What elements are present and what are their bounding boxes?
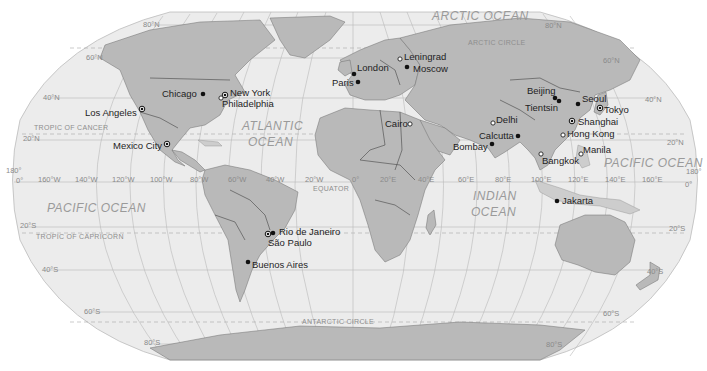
city-los-angeles: Los Angeles xyxy=(85,106,145,118)
city-label: Tokyo xyxy=(604,104,629,115)
city-dot-icon xyxy=(352,72,357,77)
latitude-label-60-s: 60°S xyxy=(603,309,619,318)
longitude-label-60-e: 60°E xyxy=(458,175,474,184)
city-label: Philadelphia xyxy=(222,98,274,109)
city-capital-center-icon xyxy=(224,94,227,97)
city-label: Chicago xyxy=(162,88,197,99)
city-label: Moscow xyxy=(413,63,448,74)
ocean-label-pacific-west: PACIFIC OCEAN xyxy=(604,156,703,170)
arctic-circle-label: ARCTIC CIRCLE xyxy=(468,39,526,46)
latitude-label-20-n: 20°N xyxy=(667,138,684,147)
city-open-circle-icon xyxy=(398,57,402,61)
city-label: Hong Kong xyxy=(567,128,615,139)
latitude-label-40-s: 40°S xyxy=(42,265,58,274)
city-dot-icon xyxy=(555,199,560,204)
city-label: São Paulo xyxy=(268,237,312,248)
latitude-label-40-n: 40°N xyxy=(645,95,662,104)
latitude-label-60-n: 60°N xyxy=(603,56,620,65)
city-label: Cairo xyxy=(385,118,408,129)
city-label: Rio de Janeiro xyxy=(279,226,340,237)
antarctic-circle-label: ANTARCTIC CIRCLE xyxy=(302,318,374,325)
longitude-label-100-e: 100°E xyxy=(531,175,552,184)
latitude-label-80-n: 80°N xyxy=(545,21,562,30)
longitude-label-0: 0° xyxy=(352,175,359,184)
city-rio-de-janeiro: Rio de Janeiro xyxy=(271,226,341,237)
city-capital-center-icon xyxy=(599,107,602,110)
city-label: London xyxy=(357,62,389,73)
longitude-label-40-w: 40°W xyxy=(266,175,285,184)
city-label: Manila xyxy=(583,144,612,155)
city-label: Buenos Aires xyxy=(252,259,308,270)
longitude-label-100-w: 100°W xyxy=(150,175,174,184)
world-map: 80°N60°N40°N20°N0°20°S40°S60°S80°S80°N60… xyxy=(0,0,707,371)
city-dot-icon xyxy=(246,260,251,265)
longitude-label-80-e: 80°E xyxy=(495,175,511,184)
longitude-label-120-w: 120°W xyxy=(112,175,136,184)
longitude-label-160-e: 160°E xyxy=(642,175,663,184)
city-new-york: New York xyxy=(222,87,270,98)
city-dot-icon xyxy=(516,134,521,139)
ocean-label-atlantic-2: OCEAN xyxy=(248,135,293,149)
longitude-label-60-w: 60°W xyxy=(228,175,247,184)
city-label: Calcutta xyxy=(479,130,515,141)
longitude-label-140-e: 140°E xyxy=(605,175,626,184)
ocean-label-indian-1: INDIAN xyxy=(473,189,517,203)
latitude-label-0: 0° xyxy=(685,180,692,189)
latitude-label-20-s: 20°S xyxy=(669,224,685,233)
city-label: Tientsin xyxy=(525,102,558,113)
city-label: Paris xyxy=(332,77,354,88)
city-label: Delhi xyxy=(496,114,518,125)
city-dot-icon xyxy=(490,142,495,147)
latitude-label-80-n: 80°N xyxy=(143,20,160,29)
city-dot-icon xyxy=(405,65,410,70)
ocean-label-atlantic-1: ATLANTIC xyxy=(241,119,303,133)
tropic-capricorn-label: TROPIC OF CAPRICORN xyxy=(36,233,124,240)
edge-meridian-label: 180° xyxy=(6,166,22,175)
city-label: New York xyxy=(230,87,270,98)
latitude-label-20-s: 20°S xyxy=(20,221,36,230)
longitude-label-20-e: 20°E xyxy=(380,175,396,184)
latitude-label-0: 0° xyxy=(16,176,23,185)
city-label: Bangkok xyxy=(542,155,579,166)
ocean-label-indian-2: OCEAN xyxy=(471,205,516,219)
equator-label: EQUATOR xyxy=(313,185,349,193)
latitude-label-60-n: 60°N xyxy=(86,53,103,62)
latitude-label-80-s: 80°S xyxy=(144,338,160,347)
city-open-circle-icon xyxy=(561,133,565,137)
city-capital-center-icon xyxy=(141,108,144,111)
city-label: Shanghai xyxy=(578,116,618,127)
city-label: Mexico City xyxy=(113,140,162,151)
city-dot-icon xyxy=(356,80,361,85)
city-philadelphia: Philadelphia xyxy=(219,96,275,109)
city-dot-icon xyxy=(576,102,581,107)
city-dot-icon xyxy=(553,96,558,101)
city-hong-kong: Hong Kong xyxy=(561,128,615,139)
longitude-label-80-w: 80°W xyxy=(190,175,209,184)
city-label: Los Angeles xyxy=(85,107,137,118)
latitude-label-40-s: 40°S xyxy=(647,267,663,276)
city-open-circle-icon xyxy=(408,122,412,126)
city-buenos-aires: Buenos Aires xyxy=(246,259,309,270)
ocean-label-pacific-east: PACIFIC OCEAN xyxy=(47,201,146,215)
longitude-label-40-e: 40°E xyxy=(418,175,434,184)
city-manila: Manila xyxy=(579,144,612,156)
city-capital-center-icon xyxy=(267,233,270,236)
city-capital-center-icon xyxy=(166,143,169,146)
longitude-label-20-w: 20°W xyxy=(305,175,324,184)
city-label: Bombay xyxy=(453,141,488,152)
latitude-label-20-n: 20°N xyxy=(23,134,40,143)
longitude-label-140-w: 140°W xyxy=(75,175,99,184)
latitude-label-80-s: 80°S xyxy=(546,340,562,349)
tropic-cancer-label: TROPIC OF CANCER xyxy=(34,124,108,131)
latitude-label-60-s: 60°S xyxy=(84,307,100,316)
city-dot-icon xyxy=(271,231,276,236)
latitude-label-40-n: 40°N xyxy=(43,93,60,102)
city-leningrad: Leningrad xyxy=(398,51,446,62)
city-dot-icon xyxy=(201,92,206,97)
longitude-label-120-e: 120°E xyxy=(568,175,589,184)
ocean-label-arctic: ARCTIC OCEAN xyxy=(431,9,529,23)
longitude-label-160-w: 160°W xyxy=(38,175,62,184)
city-mexico-city: Mexico City xyxy=(113,140,170,151)
city-label: Leningrad xyxy=(404,51,446,62)
city-label: Jakarta xyxy=(562,195,594,206)
